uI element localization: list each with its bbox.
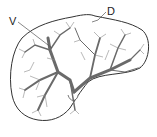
label-d: D <box>107 6 115 17</box>
liver-diagram <box>0 0 157 137</box>
label-v: V <box>9 16 16 27</box>
